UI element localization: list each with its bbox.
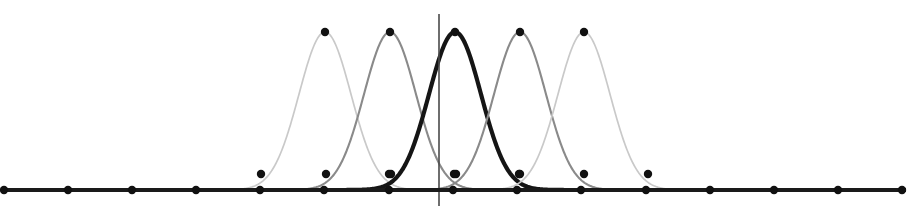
flank-marker-basis-2-0 xyxy=(322,170,330,178)
axis-tick-marker-11 xyxy=(706,186,714,194)
axis-tick-marker-2 xyxy=(128,186,136,194)
flank-marker-basis-1-0 xyxy=(257,170,265,178)
axis-tick-marker-0 xyxy=(0,186,8,194)
axis-tick-marker-8 xyxy=(513,186,521,194)
axis-tick-marker-6 xyxy=(385,186,393,194)
axis-tick-marker-1 xyxy=(64,186,72,194)
flank-marker-basis-4-0 xyxy=(452,170,460,178)
axis-tick-marker-5 xyxy=(320,186,328,194)
axis-tick-marker-10 xyxy=(642,186,650,194)
peak-marker-basis-1 xyxy=(321,28,329,36)
peak-marker-basis-3 xyxy=(451,28,459,36)
axis-tick-marker-13 xyxy=(834,186,842,194)
axis-tick-marker-9 xyxy=(577,186,585,194)
flank-marker-basis-5-1 xyxy=(644,170,652,178)
axis-tick-marker-14 xyxy=(898,186,906,194)
flank-marker-basis-5-0 xyxy=(516,170,524,178)
axis-tick-marker-12 xyxy=(770,186,778,194)
axis-tick-marker-3 xyxy=(192,186,200,194)
peak-marker-basis-2 xyxy=(386,28,394,36)
axis-tick-marker-7 xyxy=(449,186,457,194)
peak-marker-basis-5 xyxy=(580,28,588,36)
gaussian-basis-figure xyxy=(0,0,910,224)
flank-marker-basis-3-0 xyxy=(387,170,395,178)
plot-canvas xyxy=(0,0,910,224)
axis-tick-marker-4 xyxy=(256,186,264,194)
peak-marker-basis-4 xyxy=(516,28,524,36)
flank-marker-basis-4-1 xyxy=(580,170,588,178)
